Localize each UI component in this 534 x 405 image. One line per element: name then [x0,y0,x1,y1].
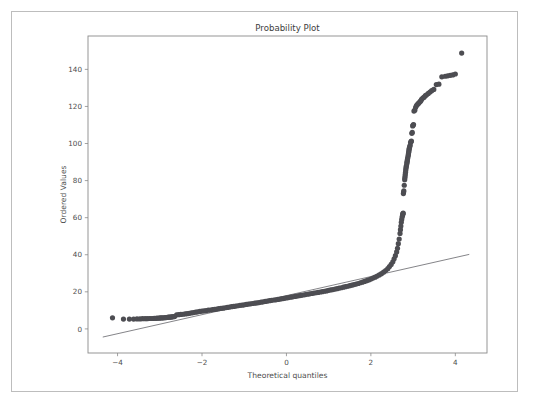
y-tick-label: 60 [73,213,83,222]
data-point [410,130,415,135]
data-point [121,316,126,321]
page-title: Probability Plot [255,23,320,33]
x-tick-label: −4 [112,358,123,367]
probability-plot-canvas: Probability Plot 020406080100120140 −4−2… [0,0,534,405]
y-tick-label: 120 [68,102,82,111]
data-point [402,183,407,188]
x-tick-label: 4 [453,358,458,367]
data-point [397,236,402,241]
y-axis-ticks: 020406080100120140 [68,65,88,334]
x-axis-ticks: −4−2024 [112,353,458,367]
data-point [453,71,458,76]
data-point [401,210,406,215]
y-tick-label: 80 [73,176,83,185]
x-axis-label: Theoretical quantiles [247,371,328,380]
data-point [396,241,401,246]
data-point [436,82,441,87]
data-point [110,315,115,320]
y-tick-label: 40 [73,250,83,259]
x-tick-label: 0 [284,358,289,367]
y-tick-label: 20 [73,287,83,296]
probability-plot-figure: Probability Plot 020406080100120140 −4−2… [0,0,534,405]
data-point [459,50,464,55]
y-tick-label: 0 [77,325,82,334]
y-tick-label: 100 [68,139,82,148]
y-tick-label: 140 [68,65,82,74]
data-point [395,246,400,251]
x-tick-label: −2 [197,358,208,367]
data-point [431,87,436,92]
data-point [411,122,416,127]
y-axis-label: Ordered Values [59,165,68,223]
x-tick-label: 2 [369,358,374,367]
data-point [409,139,414,144]
plot-area-background [88,36,487,353]
data-point [401,188,406,193]
